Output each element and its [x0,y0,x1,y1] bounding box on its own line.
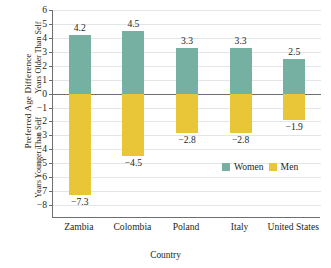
x-tick-label: Zambia [49,222,109,233]
y-tick-label: 3 [42,47,47,57]
bar-men[interactable] [69,94,91,196]
gridline [53,177,321,178]
y-tick-label: 6 [42,5,47,15]
legend: Women Men [222,162,298,172]
bar-value-label-men: −7.3 [60,197,100,207]
bar-value-label-women: 3.3 [167,36,207,46]
y-tick-label: −7 [37,186,47,196]
y-tick-mark [49,52,53,53]
y-tick-mark [49,108,53,109]
x-tick-label: United States [263,222,323,233]
bar-value-label-men: −2.8 [167,135,207,145]
bar-value-label-women: 4.5 [113,19,153,29]
bar-value-label-men: −2.8 [221,135,261,145]
bar-value-label-women: 4.2 [60,23,100,33]
bar-value-label-men: −4.5 [113,158,153,168]
bar-women[interactable] [230,48,252,94]
bar-women[interactable] [283,59,305,94]
y-tick-label: 1 [42,75,47,85]
y-tick-mark [49,205,53,206]
bar-chart: Preferred Age Difference Years Older Tha… [0,0,331,268]
y-tick-label: −8 [37,200,47,210]
y-tick-mark [49,121,53,122]
bar-women[interactable] [176,48,198,94]
y-tick-mark [49,191,53,192]
y-tick-mark [49,66,53,67]
y-tick-mark [49,10,53,11]
bar-value-label-women: 2.5 [274,47,314,57]
bar-value-label-women: 3.3 [221,36,261,46]
gridline [53,191,321,192]
legend-label-women: Women [234,162,264,172]
y-tick-label: −6 [37,172,47,182]
x-tick-label: Italy [210,222,270,233]
plot-inner: 6543210−1−2−3−4−5−6−7−84.2−7.34.5−4.53.3… [53,10,321,205]
bar-men[interactable] [122,94,144,157]
bar-women[interactable] [69,35,91,94]
legend-label-men: Men [281,162,299,172]
gridline [53,149,321,150]
legend-item-women[interactable]: Women [222,162,264,172]
y-tick-label: 0 [42,89,47,99]
y-tick-label: −2 [37,117,47,127]
bar-value-label-men: −1.9 [274,122,314,132]
y-tick-mark [49,177,53,178]
y-tick-mark [49,163,53,164]
y-axis-title: Preferred Age Difference [23,21,33,181]
y-tick-mark [49,135,53,136]
gridline [53,10,321,11]
legend-swatch-men-icon [269,163,277,171]
legend-item-men[interactable]: Men [269,162,299,172]
x-tick-label: Poland [156,222,216,233]
y-tick-label: −1 [37,103,47,113]
y-tick-mark [49,80,53,81]
y-tick-label: 2 [42,61,47,71]
y-tick-label: 4 [42,33,47,43]
x-tick-label: Colombia [102,222,162,233]
bar-women[interactable] [122,31,144,94]
plot-area: 6543210−1−2−3−4−5−6−7−84.2−7.34.5−4.53.3… [52,10,320,218]
legend-swatch-women-icon [222,163,230,171]
y-tick-mark [49,38,53,39]
y-tick-mark [49,149,53,150]
y-tick-label: 5 [42,19,47,29]
y-tick-mark [49,24,53,25]
y-tick-label: −5 [37,158,47,168]
bar-men[interactable] [283,94,305,120]
bar-men[interactable] [230,94,252,133]
y-tick-label: −3 [37,131,47,141]
bar-men[interactable] [176,94,198,133]
x-axis-title: Country [0,250,331,260]
y-tick-label: −4 [37,144,47,154]
